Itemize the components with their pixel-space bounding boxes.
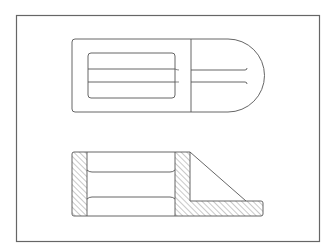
top-view-slot [88,53,175,98]
top-view-right-line-2 [191,82,247,84]
top-view [72,39,265,112]
drawing-frame [17,16,320,242]
section-left-wall [72,152,87,216]
top-view-right-line-1 [191,68,247,70]
section-right-l [175,152,263,216]
technical-drawing [0,0,332,249]
section-bore-line-1 [87,170,175,172]
section-bore-line-2 [87,197,175,199]
top-view-outline [72,39,265,112]
section-rib [190,152,246,201]
section-view [72,152,263,216]
